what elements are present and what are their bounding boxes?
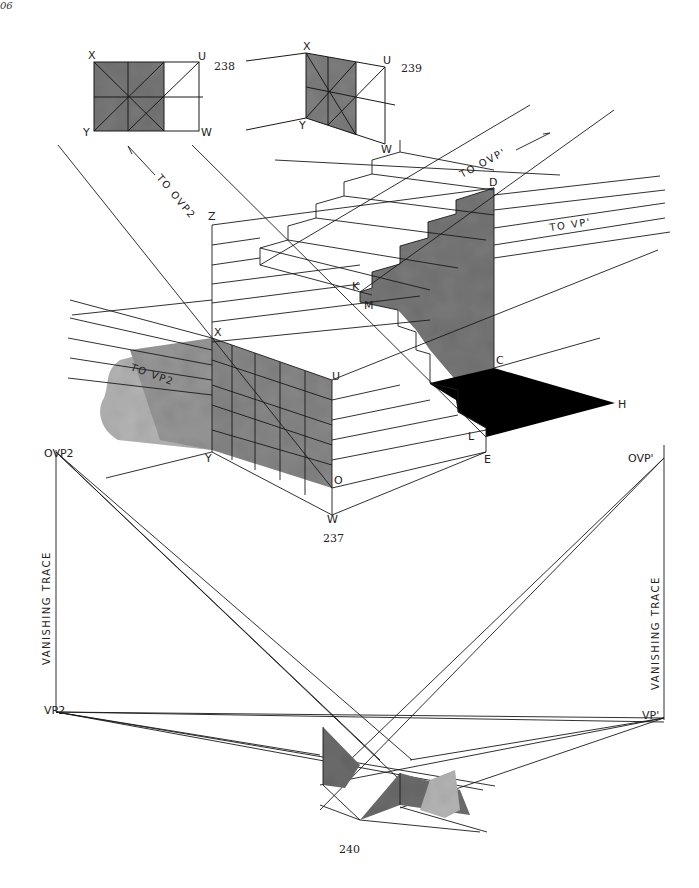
fig237-label-c: C	[496, 354, 504, 367]
fig239-label-y: Y	[298, 119, 306, 132]
fig237-label-k: K	[352, 280, 360, 293]
fig239-label-x: X	[303, 40, 311, 53]
fig239-label-u: U	[383, 54, 391, 67]
fig239-label-w: W	[381, 143, 392, 156]
fig240-label-ovp1: OVP'	[628, 452, 654, 465]
fig240-vanishing-trace-right: VANISHING TRACE	[650, 576, 661, 690]
figure-238	[94, 62, 203, 131]
fig237-label-y: Y	[204, 452, 212, 465]
figure-240	[56, 445, 664, 832]
fig237-label-u: U	[332, 370, 340, 383]
fig237-label-l: L	[468, 430, 475, 443]
fig237-stair-side-wash	[360, 188, 494, 383]
fig237-label-m: M	[364, 299, 374, 312]
fig240-label-vp1: VP'	[642, 709, 659, 722]
fig238-caption: 238	[214, 60, 235, 73]
fig237-label-w: W	[327, 513, 338, 526]
fig237-label-o: O	[334, 474, 343, 487]
fig240-label-ovp2: OVP2	[44, 447, 74, 460]
diagram-page: 06 X U Y W 238	[0, 0, 699, 888]
figure-239	[246, 53, 395, 144]
fig238-label-y: Y	[82, 126, 90, 139]
fig237-label-h: H	[618, 398, 626, 411]
fig239-caption: 239	[401, 62, 422, 75]
fig240-caption: 240	[339, 843, 360, 856]
figure-237	[100, 188, 615, 488]
fig237-label-z: Z	[208, 210, 216, 223]
page-number: 06	[0, 0, 13, 11]
fig237-caption: 237	[323, 532, 344, 545]
fig237-label-d: D	[489, 176, 497, 189]
fig240-label-vp2: VP2	[44, 704, 65, 717]
fig240-vanishing-trace-left: VANISHING TRACE	[41, 551, 52, 665]
fig238-label-x: X	[88, 49, 96, 62]
fig238-label-w: W	[201, 126, 212, 139]
fig237-label-e: E	[484, 453, 491, 466]
fig237-note-to-ovp2: TO OVP2	[154, 171, 198, 221]
fig238-label-u: U	[198, 50, 206, 63]
fig237-label-x: X	[214, 326, 222, 339]
fig240-soft-wash	[420, 770, 460, 818]
fig237-note-to-ovp1: TO OVP'	[457, 146, 508, 180]
perspective-drawing: X U Y W 238 X U Y W 239	[0, 0, 699, 888]
